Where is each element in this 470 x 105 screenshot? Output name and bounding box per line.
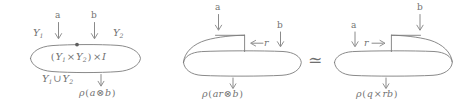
left-label-y1-subscript: 1 [40,32,44,39]
middle-label-b: b [277,21,283,30]
figure-canvas: a b Y1 Y2 (Y1×Y2)×I Y1∪Y2 ρ(a⊗b) a b r ρ… [0,0,470,105]
isomorphism-symbol: ≃ [308,50,322,70]
left-label-y2: Y2 [113,28,124,39]
left-bottom-label: ρ(a⊗b) [79,88,116,98]
left-union-y1: Y [42,73,49,84]
middle-flap-curve [184,35,245,62]
right-bottom-rho: ρ [356,88,362,99]
middle-bottom-label: ρ(ar⊗b) [202,89,244,99]
left-interior-times-2: × [92,51,102,62]
left-interior-interval: I [102,51,106,62]
right-label-r: r [364,38,369,48]
middle-bottom-ar: ar [213,88,223,99]
middle-bottom-rho: ρ [202,88,208,99]
left-label-y1-base: Y [33,27,40,38]
middle-bottom-tensor: ⊗ [223,88,232,99]
left-bottom-rho: ρ [79,87,85,98]
left-union-y2-subscript: 2 [69,78,73,85]
left-interior-label: (Y1×Y2)×I [50,52,106,63]
right-label-b: b [417,3,423,12]
middle-bottom-close-paren: ) [239,88,244,99]
right-bottom-rb: rb [382,88,393,99]
right-bottom-close-paren: ) [393,88,398,99]
right-bottom-times: × [373,88,382,99]
left-interior-y2-subscript: 2 [83,56,87,63]
middle-label-a: a [215,3,220,12]
left-union-label: Y1∪Y2 [42,74,73,85]
left-label-a: a [55,11,60,20]
right-bottom-label: ρ(q×rb) [356,89,398,99]
left-label-y2-base: Y [113,27,120,38]
right-blob-outline [335,51,453,76]
left-union-cup: ∪ [53,73,63,84]
left-union-y1-subscript: 1 [49,78,53,85]
middle-label-r: r [264,38,269,48]
left-boundary-marked-point [75,43,79,47]
left-label-y2-subscript: 2 [120,32,124,39]
right-label-a: a [351,21,356,30]
left-interior-times-1: × [66,51,76,62]
middle-blob-outline [184,51,302,76]
left-bottom-close-paren: ) [111,87,116,98]
right-bottom-q: q [367,88,373,99]
left-label-b: b [91,11,97,20]
right-flap-curve [391,35,452,62]
left-bottom-tensor: ⊗ [95,87,104,98]
left-interior-y2: Y [76,51,83,62]
middle-bottom-b: b [233,88,239,99]
left-label-y1: Y1 [33,28,44,39]
